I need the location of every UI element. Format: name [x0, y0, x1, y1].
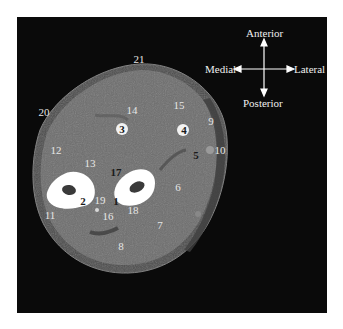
structure-label-17: 17: [111, 167, 122, 178]
structure-label-5: 5: [193, 150, 199, 161]
structure-label-7: 7: [157, 220, 163, 231]
anterior-label: Anterior: [246, 28, 283, 39]
posterior-label: Posterior: [243, 98, 283, 109]
structure-label-20: 20: [39, 107, 50, 118]
structure-label-13: 13: [85, 158, 96, 169]
structure-label-9: 9: [208, 116, 214, 127]
structure-label-2: 2: [80, 196, 86, 207]
structure-label-18: 18: [128, 205, 139, 216]
structure-label-14: 14: [127, 105, 138, 116]
structure-label-19: 19: [95, 195, 106, 206]
structure-label-15: 15: [174, 100, 185, 111]
structure-label-11: 11: [45, 210, 56, 221]
structure-label-1: 1: [113, 196, 119, 207]
orientation-cross: [234, 39, 294, 96]
ct-cross-section: [0, 0, 343, 329]
lateral-label: Lateral: [294, 64, 325, 75]
structure-label-10: 10: [215, 145, 226, 156]
structure-label-12: 12: [51, 145, 62, 156]
structure-label-4: 4: [181, 125, 187, 136]
structure-label-3: 3: [119, 124, 125, 135]
structure-label-6: 6: [175, 182, 181, 193]
medial-label: Medial: [205, 64, 236, 75]
structure-label-21: 21: [134, 54, 145, 65]
structure-label-8: 8: [118, 241, 124, 252]
structure-label-16: 16: [103, 211, 114, 222]
